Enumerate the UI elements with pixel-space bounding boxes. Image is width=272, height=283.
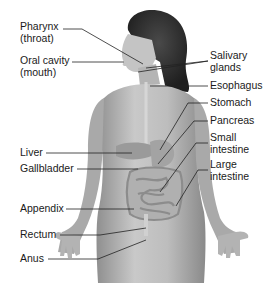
label-salivary-glands: Salivary glands xyxy=(210,50,247,73)
intestines-organ xyxy=(127,168,182,221)
right-hand xyxy=(218,231,248,258)
label-pharynx: Pharynx (throat) xyxy=(20,21,59,44)
label-pancreas: Pancreas xyxy=(210,115,254,127)
digestive-system-diagram: Pharynx (throat) Oral cavity (mouth) Liv… xyxy=(0,0,272,283)
label-gallbladder: Gallbladder xyxy=(20,163,74,175)
label-anus: Anus xyxy=(20,253,44,265)
label-large-intestine: Large intestine xyxy=(210,159,249,182)
label-appendix: Appendix xyxy=(20,203,64,215)
label-oral-cavity: Oral cavity (mouth) xyxy=(20,55,70,78)
label-rectum: Rectum xyxy=(20,229,56,241)
left-hand xyxy=(55,232,80,258)
label-small-intestine: Small intestine xyxy=(210,132,249,155)
label-liver: Liver xyxy=(20,147,43,159)
label-esophagus: Esophagus xyxy=(210,80,263,92)
label-stomach: Stomach xyxy=(210,97,251,109)
